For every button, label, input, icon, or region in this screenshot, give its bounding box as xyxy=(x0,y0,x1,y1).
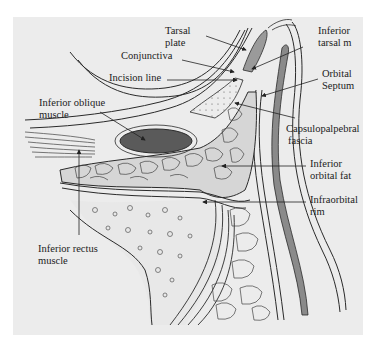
label-line: orbital fat xyxy=(310,170,351,182)
tarsal-plate-shape xyxy=(243,30,267,72)
label-inferior-oblique-muscle: Inferior oblique muscle xyxy=(39,97,105,120)
label-line: plate xyxy=(165,37,191,49)
label-line: Inferior xyxy=(318,25,352,37)
label-capsulopalpebral-fascia: Capsulopalpebral fascia xyxy=(286,123,359,146)
label-tarsal-plate: Tarsal plate xyxy=(165,25,191,48)
label-inferior-orbital-fat: Inferior orbital fat xyxy=(310,158,351,181)
label-incision-line: Incision line xyxy=(109,72,161,84)
label-line: muscle xyxy=(38,255,98,267)
label-line: rim xyxy=(310,206,358,218)
label-line: Capsulopalpebral xyxy=(286,123,359,135)
label-line: tarsal m xyxy=(318,37,352,49)
inferior-oblique-muscle-shape xyxy=(120,129,192,153)
label-line: Inferior xyxy=(310,158,351,170)
label-orbital-septum: Orbital Septum xyxy=(322,68,354,91)
label-line: Orbital xyxy=(322,68,354,80)
label-line: muscle xyxy=(39,109,105,121)
label-conjunctiva: Conjunctiva xyxy=(121,50,172,62)
label-line: Inferior oblique xyxy=(39,97,105,109)
label-inferior-tarsal-m: Inferior tarsal m xyxy=(318,25,352,48)
label-infraorbital-rim: Infraorbital rim xyxy=(310,194,358,217)
label-line: fascia xyxy=(286,135,359,147)
label-line: Septum xyxy=(322,80,354,92)
label-line: Inferior rectus xyxy=(38,243,98,255)
label-inferior-rectus-muscle: Inferior rectus muscle xyxy=(38,243,98,266)
label-line: Infraorbital xyxy=(310,194,358,206)
label-line: Tarsal xyxy=(165,25,191,37)
conjunctiva-region xyxy=(190,78,243,118)
